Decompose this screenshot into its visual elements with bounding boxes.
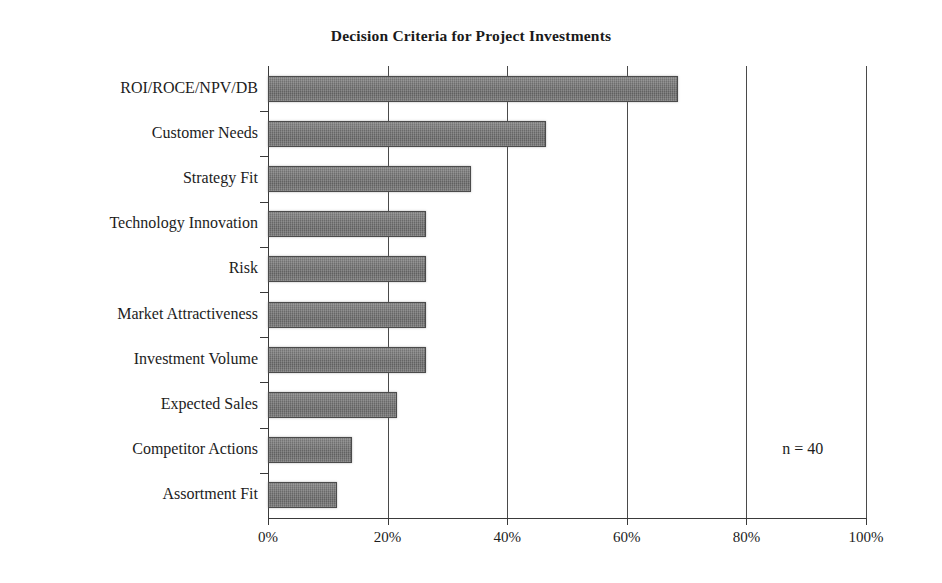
bar-row — [268, 382, 866, 427]
bar — [268, 211, 426, 237]
y-axis-tick — [260, 382, 268, 383]
y-axis-tick — [260, 428, 268, 429]
y-axis-category-label: Customer Needs — [0, 124, 258, 142]
bar — [268, 392, 397, 418]
bar-row — [268, 202, 866, 247]
y-axis-category-label: ROI/ROCE/NPV/DB — [0, 79, 258, 97]
y-axis-tick — [260, 247, 268, 248]
x-axis-tick-label: 80% — [733, 529, 761, 546]
x-axis-tick — [627, 518, 628, 525]
y-axis-category-label: Competitor Actions — [0, 440, 258, 458]
y-axis-tick — [260, 202, 268, 203]
bar — [268, 437, 352, 463]
bar-row — [268, 473, 866, 518]
x-axis-tick-label: 20% — [374, 529, 402, 546]
bar — [268, 166, 471, 192]
chart-figure: Decision Criteria for Project Investment… — [0, 0, 942, 583]
x-axis-tick — [388, 518, 389, 525]
bar — [268, 302, 426, 328]
y-axis-tick — [260, 111, 268, 112]
bar — [268, 76, 678, 102]
x-axis-tick-label: 60% — [613, 529, 641, 546]
bar-row — [268, 292, 866, 337]
y-axis-tick — [260, 156, 268, 157]
bar-row — [268, 111, 866, 156]
bar — [268, 121, 546, 147]
bar-row — [268, 428, 866, 473]
y-axis-category-label: Investment Volume — [0, 350, 258, 368]
chart-title: Decision Criteria for Project Investment… — [0, 27, 942, 45]
y-axis-category-label: Strategy Fit — [0, 169, 258, 187]
bar-row — [268, 247, 866, 292]
gridline — [866, 66, 867, 518]
x-axis-tick-label: 0% — [258, 529, 278, 546]
x-axis-tick — [746, 518, 747, 525]
x-axis-line — [268, 518, 866, 519]
x-axis-tick — [268, 518, 269, 525]
bar — [268, 256, 426, 282]
bar-row — [268, 156, 866, 201]
x-axis-tick-label: 40% — [493, 529, 521, 546]
sample-size-annotation: n = 40 — [782, 440, 823, 458]
bar — [268, 347, 426, 373]
x-axis-tick-label: 100% — [849, 529, 884, 546]
y-axis-category-label: Market Attractiveness — [0, 305, 258, 323]
x-axis-tick — [507, 518, 508, 525]
x-axis-tick — [866, 518, 867, 525]
plot-area: 0%20%40%60%80%100% — [268, 66, 866, 518]
y-axis-tick — [260, 337, 268, 338]
y-axis-category-label: Expected Sales — [0, 395, 258, 413]
y-axis-category-label: Assortment Fit — [0, 485, 258, 503]
bar-row — [268, 337, 866, 382]
bar — [268, 482, 337, 508]
bar-row — [268, 66, 866, 111]
y-axis-tick — [260, 473, 268, 474]
y-axis-category-label: Technology Innovation — [0, 214, 258, 232]
y-axis-category-label: Risk — [0, 259, 258, 277]
y-axis-tick — [260, 292, 268, 293]
